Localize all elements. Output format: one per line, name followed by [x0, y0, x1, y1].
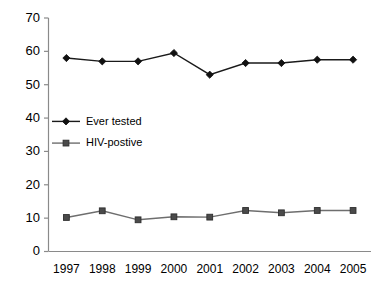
- y-axis-tick-label: 60: [26, 43, 40, 58]
- y-axis-tick-label: 20: [26, 177, 40, 192]
- x-axis-tick-label: 1999: [125, 262, 152, 276]
- legend-item[interactable]: Ever tested: [52, 115, 142, 127]
- data-series: [63, 49, 357, 78]
- data-point-marker: [349, 56, 356, 63]
- x-axis-tick-label: 2000: [161, 262, 188, 276]
- data-point-marker: [135, 217, 141, 223]
- data-point-marker: [206, 71, 213, 78]
- x-axis-tick-labels: 199719981999200020012002200320042005: [53, 262, 367, 276]
- legend-marker-diamond-icon: [62, 118, 69, 125]
- data-point-marker: [99, 208, 105, 214]
- data-point-marker: [170, 49, 177, 56]
- x-axis-tick-label: 1997: [53, 262, 80, 276]
- data-point-marker: [99, 58, 106, 65]
- data-point-marker: [242, 59, 249, 66]
- y-axis-tick-label: 40: [26, 110, 40, 125]
- y-axis-tick-label: 50: [26, 77, 40, 92]
- data-point-marker: [279, 210, 285, 216]
- x-axis-tick-label: 2002: [232, 262, 259, 276]
- line-chart: 010203040506070 199719981999200020012002…: [0, 0, 383, 303]
- x-axis-tick-label: 2004: [304, 262, 331, 276]
- y-axis-ticks: [44, 18, 49, 252]
- y-axis-tick-label: 10: [26, 210, 40, 225]
- y-axis-tick-label: 0: [33, 243, 40, 258]
- data-point-marker: [64, 215, 70, 221]
- legend-item-label: HIV-postive: [86, 136, 142, 148]
- legend-item-label: Ever tested: [86, 115, 142, 127]
- x-axis-tick-label: 1998: [89, 262, 116, 276]
- data-point-marker: [207, 214, 213, 220]
- y-axis-tick-label: 30: [26, 143, 40, 158]
- chart-canvas: 010203040506070 199719981999200020012002…: [0, 0, 383, 303]
- data-point-marker: [63, 54, 70, 61]
- data-point-marker: [243, 208, 249, 214]
- chart-legend: Ever testedHIV-postive: [52, 115, 142, 149]
- data-point-marker: [171, 214, 177, 220]
- y-axis: 010203040506070: [26, 10, 49, 259]
- y-axis-tick-labels: 010203040506070: [26, 10, 40, 259]
- legend-marker-square-icon: [63, 140, 69, 146]
- data-series: [64, 208, 356, 223]
- data-point-marker: [350, 208, 356, 214]
- data-point-marker: [278, 59, 285, 66]
- x-axis-tick-label: 2001: [196, 262, 223, 276]
- x-axis: 199719981999200020012002200320042005: [49, 252, 372, 277]
- x-axis-tick-label: 2005: [340, 262, 367, 276]
- data-point-marker: [314, 56, 321, 63]
- legend-item[interactable]: HIV-postive: [52, 136, 142, 148]
- y-axis-tick-label: 70: [26, 10, 40, 25]
- data-point-marker: [314, 208, 320, 214]
- data-point-marker: [134, 58, 141, 65]
- x-axis-tick-label: 2003: [268, 262, 295, 276]
